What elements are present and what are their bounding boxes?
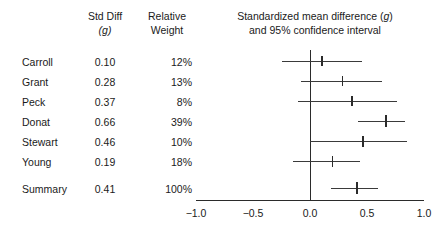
- summary-confidence-interval-line: [331, 188, 379, 189]
- effect-marker: [351, 96, 353, 106]
- effect-marker: [342, 76, 344, 86]
- x-tick-label: 0.5: [337, 207, 397, 219]
- plot-title-line2: and 95% confidence interval: [215, 24, 415, 37]
- effect-marker: [362, 136, 364, 147]
- effect-marker: [321, 56, 323, 66]
- confidence-interval-line: [298, 101, 397, 102]
- x-axis-line: [196, 200, 424, 201]
- effect-marker: [332, 156, 334, 167]
- plot-title-line1-post: ): [389, 10, 393, 22]
- confidence-interval-line: [310, 141, 407, 142]
- confidence-interval-line: [358, 121, 405, 122]
- x-tick-label: −0.5: [223, 207, 283, 219]
- x-tick-label: −1.0: [166, 207, 226, 219]
- effect-marker: [385, 115, 387, 127]
- confidence-interval-line: [293, 161, 360, 162]
- summary-effect-marker: [356, 182, 358, 194]
- forest-plot-panel: Standardized mean difference (g) and 95%…: [0, 0, 447, 234]
- forest-plot-figure: Std Diff (g) Relative Weight Carroll 0.1…: [0, 0, 447, 234]
- plot-title-line1-pre: Standardized mean difference (: [237, 10, 383, 22]
- plot-title-line1: Standardized mean difference (g): [215, 10, 415, 23]
- null-effect-line: [310, 50, 311, 201]
- x-tick-label: 1.0: [394, 207, 447, 219]
- x-tick-label: 0.0: [280, 207, 340, 219]
